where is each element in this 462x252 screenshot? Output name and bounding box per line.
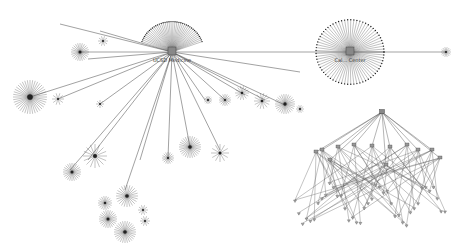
cluster-node[interactable]	[116, 185, 138, 207]
cluster-node[interactable]	[275, 94, 295, 114]
cluster-node[interactable]	[13, 80, 47, 114]
tree-leaf-node[interactable]	[432, 186, 435, 189]
cluster-node[interactable]	[71, 43, 89, 61]
spoke-edge	[168, 52, 172, 158]
tree-leaf-node[interactable]	[417, 203, 420, 206]
tree-branch-node[interactable]	[416, 148, 420, 151]
tree-leaf-node[interactable]	[428, 190, 431, 193]
tree-leaf-node[interactable]	[351, 217, 354, 220]
cluster-node[interactable]	[162, 152, 174, 164]
cluster-node[interactable]	[441, 47, 451, 57]
spoke-edge	[172, 52, 190, 147]
tree-leaf-node[interactable]	[344, 208, 347, 211]
hub-node-icon	[346, 47, 354, 55]
spoke-edge	[140, 52, 172, 160]
tree-leaf-node[interactable]	[367, 203, 370, 206]
cluster-node[interactable]	[211, 144, 229, 162]
spoke-edge	[88, 52, 172, 160]
cluster-node[interactable]	[52, 93, 64, 104]
tree-leaf-node[interactable]	[386, 190, 389, 193]
cluster-node[interactable]	[98, 196, 112, 210]
cluster-node[interactable]	[140, 216, 150, 226]
hub-label: Cal... Center	[334, 57, 366, 63]
tree-leaf-node[interactable]	[424, 187, 427, 190]
tree-branch-node[interactable]	[370, 144, 374, 147]
cluster-node[interactable]	[96, 100, 104, 108]
hub-node-icon	[168, 47, 176, 55]
cluster-node[interactable]	[204, 96, 212, 104]
tree-branch-node[interactable]	[388, 145, 392, 148]
hub-label: UCSD Medicine	[153, 57, 191, 63]
tree-leaf-node[interactable]	[436, 198, 439, 201]
tree-leaf-node[interactable]	[317, 203, 320, 206]
spoke-edge	[172, 52, 220, 150]
tree-leaf-node[interactable]	[405, 225, 408, 228]
cluster-node[interactable]	[83, 144, 107, 168]
tree-leaf-node[interactable]	[313, 219, 316, 222]
tree-leaf-node[interactable]	[401, 222, 404, 225]
tree-leaf-node[interactable]	[332, 187, 335, 190]
tree-leaf-node[interactable]	[294, 200, 297, 203]
tree-leaf-node[interactable]	[301, 223, 304, 226]
tree-leaf-node[interactable]	[340, 195, 343, 198]
tree-branch-node[interactable]	[384, 163, 388, 166]
cluster-node[interactable]	[296, 105, 304, 113]
network-graph: UCSD MedicineCal... Center	[0, 0, 462, 252]
tree-leaf-node[interactable]	[355, 222, 358, 225]
tree-leaf-node[interactable]	[378, 186, 381, 189]
tree-branch-node[interactable]	[328, 158, 332, 161]
cluster-node[interactable]	[179, 136, 201, 158]
spoke-edge	[30, 52, 172, 97]
cluster-node[interactable]	[219, 94, 231, 106]
tree-leaf-node[interactable]	[363, 207, 366, 210]
tree-branch-node[interactable]	[438, 156, 442, 159]
spoke-edge	[125, 52, 172, 190]
tree-leaf-node[interactable]	[359, 222, 362, 225]
tree-leaf-node[interactable]	[444, 211, 447, 214]
tree-branch-node[interactable]	[405, 143, 409, 146]
cluster-node[interactable]	[99, 210, 117, 228]
tree-branch-node[interactable]	[314, 150, 318, 153]
cluster-node[interactable]	[138, 205, 148, 215]
tree-leaf-node[interactable]	[413, 208, 416, 211]
cluster-node[interactable]	[114, 221, 136, 243]
tree-leaf-node[interactable]	[370, 198, 373, 201]
tree-leaf-node[interactable]	[297, 213, 300, 216]
tree-leaf-node[interactable]	[305, 218, 308, 221]
tree-branch-node[interactable]	[336, 145, 340, 148]
cluster-node[interactable]	[98, 36, 108, 46]
tree-leaf-node[interactable]	[409, 212, 412, 215]
tree-branch-node[interactable]	[352, 143, 356, 146]
cluster-node[interactable]	[63, 163, 81, 181]
tree-branch-node[interactable]	[320, 148, 324, 151]
tree-root-node[interactable]	[380, 110, 385, 114]
tree-leaf-node[interactable]	[420, 187, 423, 190]
tree-leaf-node[interactable]	[347, 220, 350, 223]
tree-leaf-node[interactable]	[309, 220, 312, 223]
spoke-edge	[70, 52, 172, 170]
graph-clusters	[13, 36, 451, 243]
hub-left[interactable]: UCSD Medicine	[141, 21, 203, 63]
tree-leaf-node[interactable]	[440, 211, 443, 214]
tree-leaf-node[interactable]	[382, 192, 385, 195]
hierarchical-tree-cluster	[294, 110, 447, 228]
tree-leaf-node[interactable]	[394, 216, 397, 219]
tree-leaf-node[interactable]	[328, 182, 331, 185]
tree-leaf-node[interactable]	[397, 214, 400, 217]
